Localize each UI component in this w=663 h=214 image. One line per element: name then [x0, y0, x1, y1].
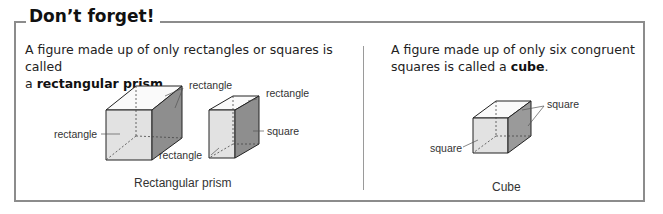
cube-definition-prefix: squares is called a: [391, 59, 511, 74]
term-cube: cube: [511, 59, 545, 74]
cube-definition-line1: A figure made up of only six congruent: [391, 42, 635, 57]
label-small-side: square: [267, 125, 299, 137]
cube-definition-suffix: .: [544, 59, 548, 74]
panel-divider: [363, 46, 364, 190]
small-prism: [209, 96, 259, 158]
caption-cube: Cube: [492, 180, 521, 194]
caption-rectangular-prism: Rectangular prism: [134, 176, 231, 190]
label-large-top: rectangle: [189, 79, 232, 91]
cube: [473, 101, 531, 153]
rectangular-prism-figures: rectangle rectangle rectangle square rec…: [0, 0, 663, 214]
label-small-top: rectangle: [266, 87, 309, 99]
label-large-front: rectangle: [54, 128, 97, 140]
label-cube-front: square: [430, 142, 462, 154]
cube-definition: A figure made up of only six congruent s…: [391, 41, 641, 75]
label-cube-top-side: square: [547, 98, 579, 110]
label-small-front: rectangle: [159, 149, 202, 161]
